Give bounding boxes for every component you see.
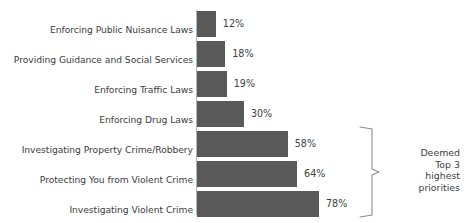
annotation-line-3: priorities (386, 182, 460, 194)
category-label-4: Investigating Property Crime/Robbery (0, 145, 193, 155)
bar-value-6: 78% (326, 199, 347, 209)
bar-6 (197, 191, 319, 217)
top-3-brace-icon (358, 126, 380, 218)
category-label-0: Enforcing Public Nuisance Laws (0, 25, 193, 35)
bar-value-3: 30% (251, 109, 272, 119)
bar-value-4: 58% (295, 139, 316, 149)
annotation-line-0: Deemed (386, 147, 460, 159)
bar-1 (197, 41, 225, 67)
bar-2 (197, 71, 227, 97)
top-3-annotation: Deemed Top 3 highest priorities (386, 147, 460, 193)
bar-4 (197, 131, 288, 157)
category-label-1: Providing Guidance and Social Services (0, 55, 193, 65)
bar-value-5: 64% (304, 169, 325, 179)
bar-0 (197, 11, 216, 37)
bar-value-1: 18% (232, 49, 253, 59)
annotation-line-2: highest (386, 170, 460, 182)
bar-3 (197, 101, 244, 127)
bar-5 (197, 161, 297, 187)
category-label-6: Investigating Violent Crime (0, 205, 193, 215)
category-label-2: Enforcing Traffic Laws (0, 85, 193, 95)
category-label-5: Protecting You from Violent Crime (0, 175, 193, 185)
bar-chart: Enforcing Public Nuisance Laws Providing… (0, 0, 466, 223)
category-axis-labels: Enforcing Public Nuisance Laws Providing… (0, 0, 193, 223)
annotation-line-1: Top 3 (386, 159, 460, 171)
category-label-3: Enforcing Drug Laws (0, 115, 193, 125)
bar-value-2: 19% (234, 79, 255, 89)
bar-value-0: 12% (223, 19, 244, 29)
